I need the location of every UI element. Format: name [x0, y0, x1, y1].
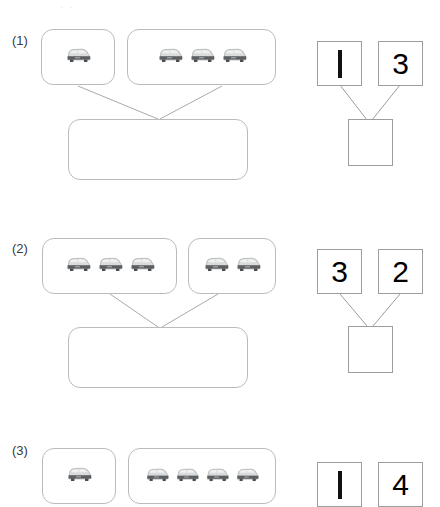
car-icon: [155, 45, 185, 69]
car-icon: [173, 465, 201, 488]
car-icon: [233, 254, 263, 278]
car-icon: [203, 465, 231, 488]
problem-1-addend-right[interactable]: 3: [378, 41, 423, 86]
car-icon: [95, 254, 125, 278]
problem-1-answer-box[interactable]: [68, 119, 248, 180]
car-icon: [64, 464, 94, 488]
problem-3-addend-left[interactable]: [317, 462, 362, 507]
car-icon: [219, 45, 249, 69]
problem-2-addend-right[interactable]: 2: [378, 249, 423, 294]
problem-2: (2): [0, 208, 440, 420]
problem-1: (1): [0, 0, 440, 210]
problem-3-addend-right[interactable]: 4: [378, 462, 423, 507]
problem-2-label: (2): [12, 241, 28, 256]
car-icon: [143, 465, 171, 488]
problem-3-group-2[interactable]: [128, 448, 276, 504]
digit-one-stroke: [338, 471, 342, 499]
problem-1-group-2[interactable]: [127, 29, 276, 85]
problem-1-addend-left[interactable]: [317, 41, 362, 86]
problem-2-group-1[interactable]: [42, 238, 177, 294]
problem-2-sum-box[interactable]: [348, 326, 393, 373]
problem-1-group-1[interactable]: [41, 29, 115, 85]
problem-2-answer-box[interactable]: [68, 327, 248, 388]
car-icon: [233, 465, 261, 488]
problem-2-group-2[interactable]: [188, 238, 276, 294]
car-icon: [127, 254, 157, 278]
problem-1-label: (1): [12, 33, 28, 48]
problem-1-sum-box[interactable]: [348, 119, 393, 166]
car-icon: [63, 45, 93, 69]
car-icon: [201, 254, 231, 278]
problem-3: (3): [0, 418, 440, 498]
car-icon: [63, 254, 93, 278]
problem-3-label: (3): [12, 443, 28, 458]
digit-one-stroke: [338, 50, 342, 78]
problem-2-addend-left[interactable]: 3: [317, 249, 362, 294]
problem-3-group-1[interactable]: [42, 448, 116, 504]
car-icon: [187, 45, 217, 69]
